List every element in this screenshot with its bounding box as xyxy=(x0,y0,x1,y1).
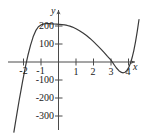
y-axis-label: y xyxy=(51,6,55,16)
y-tick-label-neg300: -300 xyxy=(10,111,54,121)
x-tick-label-1: 1 xyxy=(68,67,84,77)
x-tick-label-neg2: -2 xyxy=(15,66,32,76)
x-axis-label: x xyxy=(133,62,137,72)
y-tick-label-neg200: -200 xyxy=(10,93,54,103)
y-tick-label-100: 100 xyxy=(12,39,54,49)
chart-figure: 200 100 -100 -200 -300 -2 -1 1 2 3 4 y x xyxy=(0,0,144,136)
x-tick-label-3: 3 xyxy=(103,67,119,77)
x-tick-label-2: 2 xyxy=(85,67,101,77)
y-axis xyxy=(56,10,60,130)
y-tick-label-neg100: -100 xyxy=(10,75,54,85)
y-tick-label-200: 200 xyxy=(12,21,54,31)
x-tick-label-neg1: -1 xyxy=(32,66,49,76)
